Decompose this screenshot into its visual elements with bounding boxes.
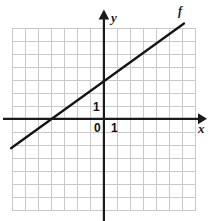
graph-figure: y x f 1 0 1 [0,0,211,221]
x-axis-label: x [197,121,205,136]
origin-tick-zero: 0 [94,121,101,135]
y-axis-tick-one: 1 [93,100,100,114]
function-label-f: f [178,4,183,18]
coordinate-plane-svg: y x f 1 0 1 [0,0,211,221]
x-axis-tick-one: 1 [111,121,118,135]
y-axis-label: y [109,10,117,25]
